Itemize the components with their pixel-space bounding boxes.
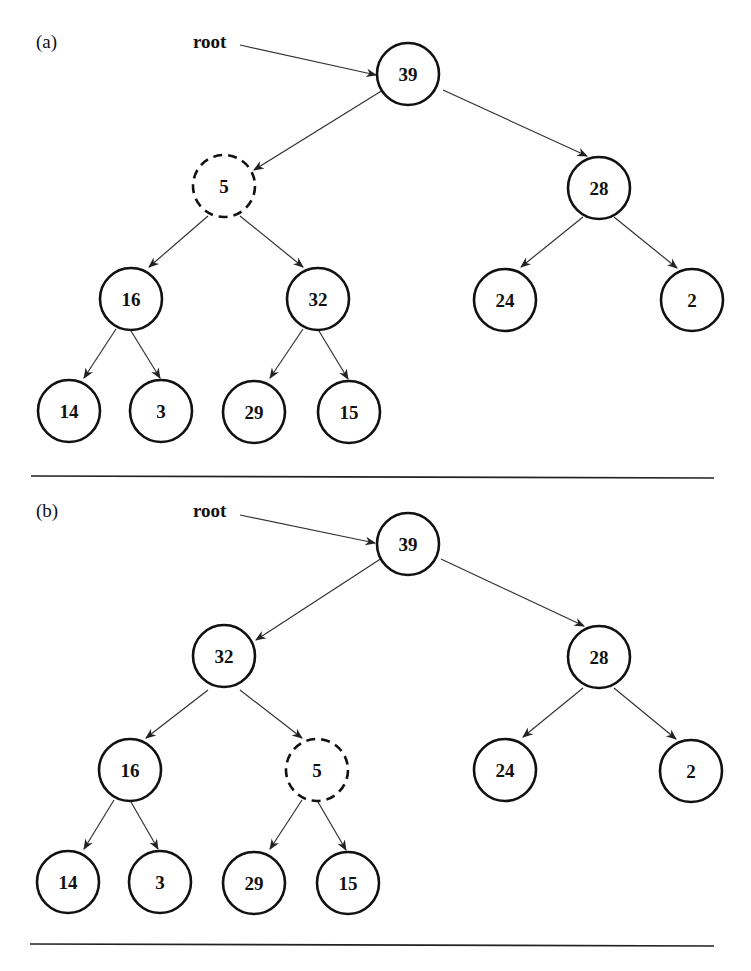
- svg-text:5: 5: [219, 176, 229, 197]
- node-24: 24: [474, 739, 536, 801]
- svg-text:15: 15: [339, 873, 358, 894]
- panel-a: (a) root 39 5 28 16: [31, 31, 723, 478]
- node-29: 29: [223, 381, 285, 443]
- node-14: 14: [37, 851, 99, 913]
- node-16: 16: [99, 739, 161, 801]
- svg-text:3: 3: [156, 401, 166, 422]
- root-pointer-arrow: [240, 45, 376, 75]
- svg-text:2: 2: [686, 761, 696, 782]
- svg-text:29: 29: [245, 873, 264, 894]
- svg-text:39: 39: [399, 64, 418, 85]
- edge-5-15: [318, 802, 346, 850]
- svg-text:32: 32: [215, 646, 234, 667]
- edge-5-32: [240, 216, 303, 267]
- edge-28-24: [521, 217, 583, 267]
- node-32: 32: [193, 625, 255, 687]
- root-label-b: root: [193, 500, 227, 521]
- edge-28-24: [523, 688, 583, 737]
- svg-text:28: 28: [590, 178, 609, 199]
- svg-text:16: 16: [122, 289, 141, 310]
- node-3: 3: [129, 851, 191, 913]
- panel-label-b: (b): [36, 500, 58, 522]
- node-5-dashed: 5: [193, 155, 255, 217]
- edge-39-28: [443, 90, 587, 156]
- edge-39-32: [256, 558, 382, 640]
- edge-32-5: [240, 690, 302, 738]
- heap-diagram: (a) root 39 5 28 16: [0, 0, 751, 971]
- svg-text:15: 15: [340, 402, 359, 423]
- svg-text:28: 28: [590, 647, 609, 668]
- root-pointer-arrow: [240, 515, 375, 543]
- node-2: 2: [660, 740, 722, 802]
- node-14: 14: [38, 380, 100, 442]
- node-28: 28: [568, 157, 630, 219]
- root-label-a: root: [193, 31, 227, 52]
- node-5-dashed: 5: [286, 739, 348, 801]
- edge-32-29: [270, 329, 303, 378]
- svg-text:3: 3: [155, 872, 165, 893]
- node-29: 29: [223, 852, 285, 914]
- svg-text:5: 5: [312, 760, 322, 781]
- edge-39-5: [254, 90, 383, 170]
- svg-text:24: 24: [496, 290, 516, 311]
- edge-16-3: [131, 802, 158, 849]
- node-24: 24: [474, 269, 536, 331]
- node-28: 28: [568, 626, 630, 688]
- node-39: 39: [377, 513, 439, 575]
- node-15: 15: [317, 852, 379, 914]
- edge-16-3: [131, 331, 160, 378]
- svg-text:16: 16: [121, 760, 140, 781]
- edge-28-2: [614, 217, 677, 268]
- svg-text:14: 14: [59, 872, 79, 893]
- svg-text:29: 29: [245, 402, 264, 423]
- edge-16-14: [84, 329, 116, 378]
- edge-32-15: [319, 331, 348, 379]
- node-39: 39: [377, 43, 439, 105]
- node-32: 32: [287, 268, 349, 330]
- divider-b: [30, 944, 714, 946]
- edge-32-16: [146, 690, 208, 738]
- svg-text:32: 32: [309, 289, 328, 310]
- node-3: 3: [130, 380, 192, 442]
- edge-16-14: [84, 800, 114, 849]
- node-15: 15: [318, 381, 380, 443]
- svg-text:24: 24: [496, 760, 516, 781]
- edge-5-16: [149, 216, 208, 267]
- node-2: 2: [661, 269, 723, 331]
- node-16: 16: [100, 268, 162, 330]
- svg-text:14: 14: [60, 401, 80, 422]
- panel-b: (b) root 39 32 28 16: [30, 500, 722, 946]
- panel-label-a: (a): [36, 31, 57, 53]
- svg-text:39: 39: [399, 534, 418, 555]
- edge-39-28: [441, 559, 584, 626]
- edge-28-2: [614, 688, 676, 739]
- svg-text:2: 2: [687, 290, 697, 311]
- edge-5-29: [270, 800, 302, 849]
- divider-a: [31, 476, 714, 478]
